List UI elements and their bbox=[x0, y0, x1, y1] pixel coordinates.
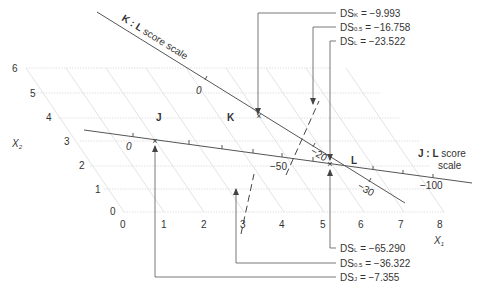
x1-tick-4: 4 bbox=[279, 219, 285, 230]
annotation-ds-05-top: DS0.5= −16.758 bbox=[340, 22, 411, 33]
x1-tick-8: 8 bbox=[437, 219, 443, 230]
x1-axis-label: X1 bbox=[433, 235, 444, 247]
jl-tick-0: 0 bbox=[126, 141, 132, 152]
x2-tick-4: 4 bbox=[46, 112, 52, 123]
annotation-ds-05-bottom: DS0.5= −36.322 bbox=[340, 258, 411, 269]
x1-tick-7: 7 bbox=[398, 219, 404, 230]
point-l-label: L bbox=[351, 155, 357, 166]
top-leaders bbox=[255, 13, 336, 161]
annotation-ds-k: DSK= −9.993 bbox=[340, 8, 401, 19]
annotation-ds-j: DSJ= −7.355 bbox=[340, 272, 400, 283]
x1-tick-5: 5 bbox=[320, 219, 326, 230]
x2-tick-1: 1 bbox=[95, 184, 101, 195]
bottom-leaders bbox=[152, 145, 336, 277]
kl-tick-0: 0 bbox=[196, 85, 202, 96]
point-j-marker: × bbox=[152, 136, 157, 146]
discriminant-score-diagram: 6 5 4 3 2 1 0 X2 0 1 2 3 4 5 6 7 8 X1 K … bbox=[0, 0, 480, 292]
x1-tick-1: 1 bbox=[161, 219, 167, 230]
x2-tick-6: 6 bbox=[12, 63, 18, 74]
x1-tick-6: 6 bbox=[358, 219, 364, 230]
x2-tick-0: 0 bbox=[110, 206, 116, 217]
x2-tick-5: 5 bbox=[30, 88, 36, 99]
x2-tick-3: 3 bbox=[64, 136, 70, 147]
x1-tick-2: 2 bbox=[201, 219, 207, 230]
x2-tick-2: 2 bbox=[79, 160, 85, 171]
x1-tick-0: 0 bbox=[120, 219, 126, 230]
jl-tick-100: −100 bbox=[420, 180, 443, 191]
kl-scale-title: K : L score scale bbox=[120, 12, 190, 61]
annotation-ds-l-top: DSL= −23.522 bbox=[340, 36, 406, 47]
x2-axis-label: X2 bbox=[11, 138, 23, 150]
jl-scale-title: J : L score bbox=[418, 148, 466, 159]
point-k-label: K bbox=[227, 112, 235, 123]
point-j-label: J bbox=[156, 112, 162, 123]
jl-score-scale: 0 −50 −100 J : L score scale bbox=[84, 130, 472, 191]
x1-tick-3: 3 bbox=[240, 219, 246, 230]
kl-score-scale: K : L score scale 0 −20 −30 bbox=[97, 12, 405, 203]
jl-scale-title-line2: scale bbox=[438, 160, 462, 171]
jl-tick-50: −50 bbox=[270, 161, 287, 172]
annotation-ds-l-bottom: DSL= −65.290 bbox=[340, 243, 406, 254]
